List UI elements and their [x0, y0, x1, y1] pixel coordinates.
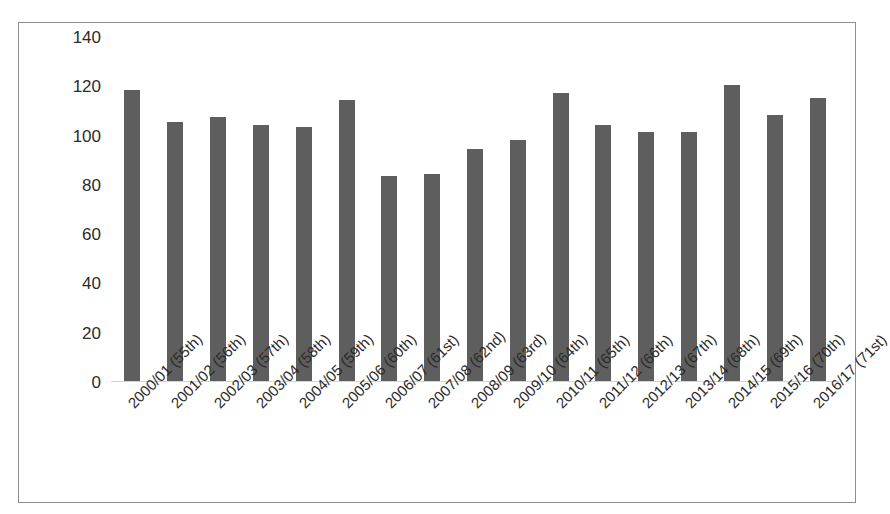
x-axis-label-slot: 2005/06 (60th): [325, 396, 368, 514]
bar[interactable]: [124, 90, 140, 381]
x-axis-label-slot: 2003/04 (58th): [239, 396, 282, 514]
bar-slot: [753, 37, 796, 381]
x-axis-label-slot: 2008/09 (63rd): [454, 396, 497, 514]
y-axis-tick-label: 140: [41, 29, 111, 46]
y-axis-tick-label: 40: [41, 275, 111, 292]
bar-slot: [625, 37, 668, 381]
chart-frame: 020406080100120140 2000/01 (55th)2001/02…: [18, 22, 856, 503]
bar-series: [111, 37, 839, 381]
bar-slot: [368, 37, 411, 381]
bar-slot: [582, 37, 625, 381]
y-axis-tick-label: 60: [41, 226, 111, 243]
x-axis-label-slot: 2000/01 (55th): [111, 396, 154, 514]
bar-slot: [239, 37, 282, 381]
y-axis-tick-label: 100: [41, 127, 111, 144]
x-axis-label-slot: 2009/10 (64th): [496, 396, 539, 514]
x-axis-label-slot: 2013/14 (68th): [668, 396, 711, 514]
x-axis-label-slot: 2002/03 (57th): [197, 396, 240, 514]
bar-slot: [411, 37, 454, 381]
x-axis-label-slot: 2004/05 (59th): [282, 396, 325, 514]
bar-slot: [668, 37, 711, 381]
bar[interactable]: [339, 100, 355, 381]
x-axis-label-slot: 2012/13 (67th): [625, 396, 668, 514]
x-axis-label-slot: 2015/16 (70th): [753, 396, 796, 514]
bar[interactable]: [810, 98, 826, 381]
bar[interactable]: [553, 93, 569, 381]
bar-slot: [796, 37, 839, 381]
bar-slot: [154, 37, 197, 381]
bar-slot: [454, 37, 497, 381]
bar-slot: [325, 37, 368, 381]
y-axis-tick-label: 80: [41, 176, 111, 193]
bar-slot: [282, 37, 325, 381]
x-axis-label-slot: 2011/12 (66th): [582, 396, 625, 514]
x-axis-label-slot: 2016/17 (71st): [796, 396, 839, 514]
x-axis-label-slot: 2007/08 (62nd): [411, 396, 454, 514]
category-axis-line: [111, 381, 839, 382]
x-axis-label-slot: 2014/15 (69th): [711, 396, 754, 514]
bar-slot: [711, 37, 754, 381]
bar-slot: [496, 37, 539, 381]
bar-slot: [197, 37, 240, 381]
y-axis-tick-label: 0: [41, 374, 111, 391]
x-axis-label-slot: 2001/02 (56th): [154, 396, 197, 514]
x-axis-label-slot: 2010/11 (65th): [539, 396, 582, 514]
y-axis-tick-label: 120: [41, 78, 111, 95]
bar[interactable]: [724, 85, 740, 381]
bar[interactable]: [767, 115, 783, 381]
y-axis-tick-label: 20: [41, 324, 111, 341]
x-axis-tick-labels: 2000/01 (55th)2001/02 (56th)2002/03 (57t…: [111, 396, 839, 514]
bar-slot: [111, 37, 154, 381]
x-axis-label-slot: 2006/07 (61st): [368, 396, 411, 514]
plot-area: 020406080100120140: [111, 37, 839, 382]
bar-slot: [539, 37, 582, 381]
